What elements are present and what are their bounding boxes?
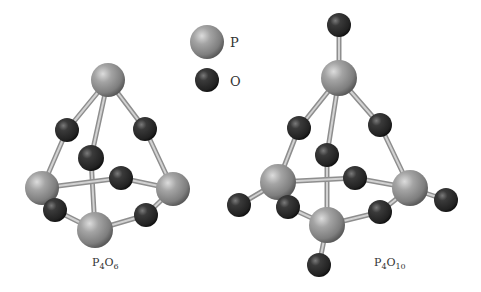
oxygen-atom-T1 [327,13,351,37]
oxygen-atom-O4 [343,166,367,190]
oxygen-atom-O6 [368,200,392,224]
oxygen-atom-O2 [133,117,157,141]
legend-oxygen-sphere [195,68,219,92]
phosphorus-oxides-diagram: P O P4O6 P4O10 [0,0,481,292]
oxygen-atom-O3 [315,143,339,167]
molecule-p4o6: P4O6 [25,63,190,271]
oxygen-atom-O4 [109,166,133,190]
phosphorus-atom-P3 [392,170,428,206]
phosphorus-atom-P4 [77,212,113,248]
molecule-p4o10: P4O10 [227,13,458,277]
p4o10-atoms [227,13,458,277]
oxygen-atom-O5 [276,195,300,219]
phosphorus-atom-P1 [321,60,357,96]
p4o6-atoms [25,63,190,248]
legend-phosphorus-label: P [230,35,239,50]
legend-phosphorus-sphere [190,25,224,59]
oxygen-atom-T3 [434,188,458,212]
phosphorus-atom-P2 [260,164,296,200]
oxygen-atom-O1 [287,116,311,140]
oxygen-atom-T4 [307,253,331,277]
oxygen-atom-O1 [55,118,79,142]
phosphorus-atom-P1 [91,63,125,97]
phosphorus-atom-P4 [309,207,345,243]
phosphorus-atom-P3 [156,172,190,206]
oxygen-atom-O5 [43,198,67,222]
legend-oxygen-label: O [230,74,241,89]
p4o6-formula-label: P4O6 [92,256,119,271]
oxygen-atom-O2 [368,113,392,137]
p4o10-formula-label: P4O10 [374,256,406,271]
legend: P O [190,25,241,92]
oxygen-atom-O6 [134,203,158,227]
oxygen-atom-O3 [78,145,104,171]
oxygen-atom-T2 [227,193,251,217]
